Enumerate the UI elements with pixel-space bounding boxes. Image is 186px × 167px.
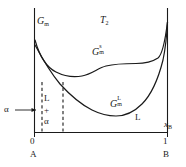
solid-curve-label: Gsm xyxy=(92,44,104,57)
liquid-curve-subscript: m xyxy=(117,101,122,107)
x-axis-label: xB xyxy=(164,120,172,129)
x-tick-label-0: 0 xyxy=(30,137,35,146)
liquid-phase-label: L xyxy=(135,113,141,122)
solid-curve-subscript: m xyxy=(99,49,104,55)
liquid-curve-label: GLm xyxy=(110,96,122,109)
x-tick-label-1: 1 xyxy=(163,137,168,146)
alpha-phase-label: α xyxy=(4,105,9,114)
temperature-subscript: 2 xyxy=(106,20,109,26)
liquid-curve-symbol: G xyxy=(110,98,117,109)
end-member-label-b: B xyxy=(163,150,169,159)
two-phase-label-plus: + xyxy=(44,106,49,115)
alpha-leader-arrowhead xyxy=(32,108,37,112)
two-phase-label-liquid: L xyxy=(44,94,50,103)
y-axis-label: Gm xyxy=(37,16,49,26)
temperature-symbol: T xyxy=(100,14,106,25)
y-axis-label-subscript: m xyxy=(44,21,49,27)
temperature-label: T2 xyxy=(100,15,109,25)
solid-curve-symbol: G xyxy=(92,46,99,57)
end-member-label-a: A xyxy=(30,150,37,159)
two-phase-label-alpha: α xyxy=(44,117,49,126)
gibbs-energy-diagram: Gm T2 Gsm GLm L + α α L xB 0 1 A B xyxy=(0,0,186,167)
liquid-curve-affixes: Lm xyxy=(117,95,122,107)
x-axis-label-subscript: B xyxy=(168,124,172,130)
diagram-canvas xyxy=(0,0,186,167)
solid-curve-affixes: sm xyxy=(99,43,104,55)
liquid-phase-curve xyxy=(35,22,168,116)
